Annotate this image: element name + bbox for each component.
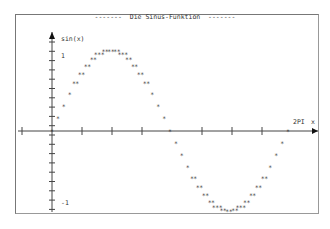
svg-text:*: * (162, 115, 166, 123)
svg-text:*: * (75, 80, 79, 88)
svg-text:*: * (62, 103, 66, 111)
svg-text:*: * (56, 115, 60, 123)
x-axis-label: x (311, 118, 315, 126)
svg-text:*: * (252, 192, 256, 200)
svg-text:*: * (286, 128, 290, 136)
svg-text:*: * (146, 80, 150, 88)
plot-area: ****************************************… (0, 0, 330, 229)
svg-text:*: * (186, 164, 190, 172)
svg-text:*: * (156, 103, 160, 111)
svg-text:*: * (168, 128, 172, 136)
svg-text:*: * (68, 91, 72, 99)
svg-text:*: * (174, 140, 178, 148)
x-end-label: 2PI (293, 118, 305, 126)
svg-text:*: * (280, 140, 284, 148)
y-tick-label-minus-1: -1 (61, 199, 69, 207)
y-axis-label: sin(x) (61, 35, 84, 43)
svg-text:*: * (180, 152, 184, 160)
svg-text:*: * (193, 175, 197, 183)
y-tick-label-1: 1 (61, 52, 65, 60)
svg-text:*: * (50, 128, 54, 136)
svg-text:*: * (274, 152, 278, 160)
svg-text:*: * (258, 184, 262, 192)
svg-text:*: * (264, 175, 268, 183)
svg-text:*: * (81, 71, 85, 79)
svg-text:*: * (134, 63, 138, 71)
svg-text:*: * (140, 71, 144, 79)
svg-text:*: * (150, 91, 154, 99)
svg-text:*: * (199, 184, 203, 192)
svg-text:*: * (268, 164, 272, 172)
